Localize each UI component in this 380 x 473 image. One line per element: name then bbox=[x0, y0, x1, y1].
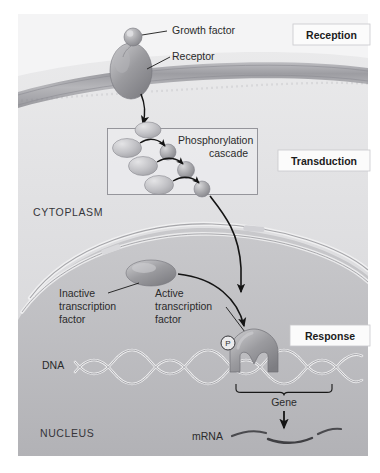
receptor-label: Receptor bbox=[172, 50, 215, 62]
reception-label: Reception bbox=[306, 29, 357, 41]
dna-label: DNA bbox=[42, 359, 64, 371]
signaling-pathway-figure: Growth factor Receptor Phosphorylation c… bbox=[0, 0, 380, 473]
inactive-tf-label-line1: Inactive bbox=[59, 287, 95, 299]
relay-molecule-2 bbox=[129, 157, 158, 176]
cytoplasm-label: CYTOPLASM bbox=[33, 206, 103, 218]
transduction-label: Transduction bbox=[291, 155, 357, 167]
growth-factor-label: Growth factor bbox=[172, 24, 236, 36]
stage-label-transduction: Transduction bbox=[278, 150, 370, 171]
diagram-canvas: Growth factor Receptor Phosphorylation c… bbox=[0, 0, 380, 473]
inactive-tf-label-line3: factor bbox=[59, 313, 86, 325]
relay-molecule-1 bbox=[113, 139, 142, 158]
phosphate-label: P bbox=[225, 339, 230, 348]
active-tf-label-line2: transcription bbox=[155, 300, 212, 312]
growth-factor-highlight bbox=[127, 30, 134, 37]
stage-label-response: Response bbox=[290, 325, 370, 346]
phosphorylation-cascade-label-line2: cascade bbox=[209, 147, 248, 159]
growth-factor-shape bbox=[124, 28, 142, 46]
nuclear-pore-2 bbox=[246, 228, 262, 229]
inactive-transcription-factor-shape bbox=[126, 260, 176, 286]
relay-molecule-3 bbox=[145, 176, 174, 195]
active-tf-label-line3: factor bbox=[155, 313, 182, 325]
stage-label-reception: Reception bbox=[293, 24, 370, 45]
receptor-highlight bbox=[114, 47, 130, 73]
activated-molecule-3 bbox=[194, 181, 210, 197]
relay-molecule-0 bbox=[135, 122, 161, 138]
inactive-transcription-factor-group bbox=[126, 260, 176, 286]
nucleus-label: NUCLEUS bbox=[40, 427, 94, 439]
mrna-label: mRNA bbox=[192, 430, 223, 442]
gene-label: Gene bbox=[271, 396, 297, 408]
cell-background bbox=[18, 14, 368, 456]
phosphorylation-cascade-label-line1: Phosphorylation bbox=[178, 134, 253, 146]
active-tf-label-line1: Active bbox=[155, 287, 184, 299]
phosphate-group: P bbox=[221, 336, 235, 350]
response-label: Response bbox=[305, 330, 355, 342]
inactive-tf-label-line2: transcription bbox=[59, 300, 116, 312]
activated-molecule-2 bbox=[178, 162, 195, 179]
inactive-tf-highlight bbox=[132, 263, 156, 273]
